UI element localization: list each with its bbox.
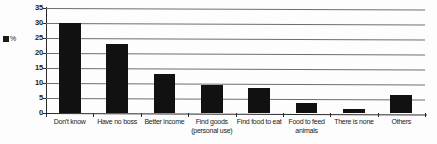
x-axis-tick-mark	[283, 113, 284, 117]
x-axis-ticks	[46, 113, 425, 117]
x-axis-tick-mark	[188, 113, 189, 117]
x-axis-labels: Don't knowHave no bossBetter incomeFind …	[46, 118, 425, 144]
bar-slot	[236, 8, 283, 113]
y-axis-tick-label: 25	[35, 34, 43, 42]
y-axis-tick-label: 20	[35, 49, 43, 57]
x-axis-label-line: Have no boss	[97, 118, 137, 125]
bar	[106, 44, 128, 113]
x-axis-tick-mark	[236, 113, 237, 117]
bar	[201, 85, 223, 113]
x-axis-tick-mark	[46, 113, 47, 117]
bar-slot	[378, 8, 425, 113]
x-axis-label-line: (personal use)	[180, 127, 244, 136]
legend-swatch-percent	[3, 36, 9, 42]
bar-slot	[188, 8, 235, 113]
y-axis: 05101520253035	[24, 4, 46, 116]
bar-chart: % 05101520253035 Don't knowHave no bossB…	[0, 0, 437, 144]
x-axis-tick-mark	[141, 113, 142, 117]
x-axis-label-line: Others	[392, 118, 412, 125]
y-axis-tick-label: 30	[35, 19, 43, 27]
x-axis-tick-mark	[330, 113, 331, 117]
x-axis-label-line: There is none	[334, 118, 374, 125]
bar-slot	[46, 8, 93, 113]
bar	[296, 103, 318, 114]
x-axis-tick-mark	[378, 113, 379, 117]
bar-slot	[141, 8, 188, 113]
x-axis-label-line: animals	[274, 127, 338, 136]
bar	[390, 95, 412, 113]
x-axis-label-line: Find goods	[196, 118, 228, 125]
bar	[59, 23, 81, 113]
y-axis-tick-label: 10	[35, 79, 43, 87]
bar	[248, 88, 270, 113]
x-axis-tick-mark	[425, 113, 426, 117]
y-axis-tick-label: 15	[35, 64, 43, 72]
bar-series-percent	[46, 8, 425, 113]
plot-area	[46, 8, 425, 113]
y-axis-tick-label: 35	[35, 4, 43, 12]
bar-slot	[93, 8, 140, 113]
x-axis-label-line: Better income	[144, 118, 184, 125]
x-axis-tick-mark	[93, 113, 94, 117]
x-axis-label: Others	[369, 118, 433, 127]
chart-legend: %	[3, 35, 16, 42]
x-axis-label-line: Food to feed	[288, 118, 324, 125]
x-axis-label-line: Don't know	[54, 118, 86, 125]
bar-slot	[330, 8, 377, 113]
bar	[154, 74, 176, 113]
bar-slot	[283, 8, 330, 113]
legend-label-percent: %	[10, 35, 16, 42]
